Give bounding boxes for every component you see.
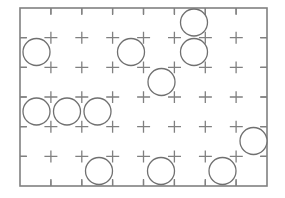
diagram-canvas: [0, 0, 285, 198]
grid-circles-diagram: [0, 0, 285, 198]
